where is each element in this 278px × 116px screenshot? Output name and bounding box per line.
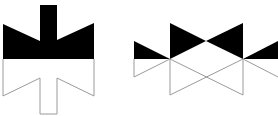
bowtie-outline-right <box>243 59 278 77</box>
bowtie-small-right-triangle <box>243 41 278 59</box>
bowtie-big-left-triangle <box>170 23 206 59</box>
diagram-canvas <box>0 0 278 116</box>
bowtie-big-right-triangle <box>206 23 243 59</box>
cross-filled-top <box>3 5 94 59</box>
bowtie-outline-left <box>134 59 170 77</box>
cross-outline-bottom <box>3 59 94 114</box>
bowtie-figure <box>134 23 278 95</box>
bowtie-small-left-triangle <box>134 41 170 59</box>
cross-shape-figure <box>3 5 94 114</box>
